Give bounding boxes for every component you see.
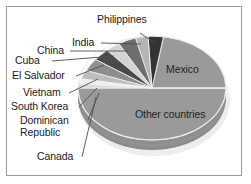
callout-label-dominican-republic-line1: Dominican [20, 114, 69, 126]
callout-label-south-korea: South Korea [11, 100, 68, 112]
slice-label-other-countries: Other countries [135, 108, 205, 120]
callout-label-cuba: Cuba [15, 54, 40, 66]
callout-label-vietnam: Vietnam [23, 86, 61, 98]
slice-label-mexico: Mexico [166, 63, 199, 75]
callout-label-canada: Canada [37, 150, 73, 162]
callout-label-el-salvador: El Salvador [12, 69, 65, 81]
callout-label-china: China [37, 44, 64, 56]
pie-chart-figure: Philippines India China Cuba El Salvador… [0, 0, 251, 184]
callout-label-india: India [72, 36, 94, 48]
callout-label-philippines: Philippines [97, 13, 147, 25]
pie-top-face [78, 36, 226, 140]
callout-label-dominican-republic-line2: Republic [20, 126, 60, 138]
